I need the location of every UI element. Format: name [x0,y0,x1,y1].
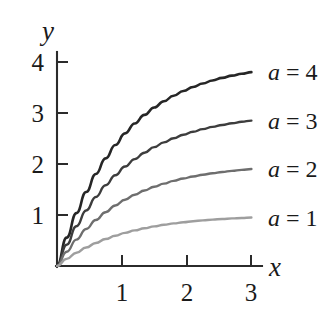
x-tick-label-1: 1 [116,279,129,306]
line-chart: 4 3 2 1 1 2 3 y x a = 4a = 3a = 2a = 1 [0,0,333,318]
curve-a-2 [57,169,251,266]
series-label-group: a = 4a = 3a = 2a = 1 [268,59,318,230]
y-tick-marks [57,62,68,215]
x-tick-marks [122,255,251,266]
series-label-a-3: a = 3 [268,108,318,134]
series-label-a-4: a = 4 [268,59,318,85]
y-tick-label-1: 1 [32,202,45,229]
curve-a-4 [57,72,251,266]
y-tick-label-4: 4 [32,49,45,76]
y-axis-title: y [39,16,54,46]
y-tick-label-2: 2 [32,151,45,178]
series-label-a-1: a = 1 [268,205,318,231]
x-axis-title: x [268,252,281,282]
y-tick-labels: 4 3 2 1 [32,49,45,229]
x-tick-label-3: 3 [245,279,258,306]
curve-group [57,72,251,266]
x-tick-label-2: 2 [181,279,194,306]
x-tick-labels: 1 2 3 [116,279,258,306]
axes-group [56,52,262,267]
y-tick-label-3: 3 [32,100,45,127]
curve-a-1 [57,218,251,266]
chart-figure: 4 3 2 1 1 2 3 y x a = 4a = 3a = 2a = 1 [0,0,333,318]
series-label-a-2: a = 2 [268,156,318,182]
